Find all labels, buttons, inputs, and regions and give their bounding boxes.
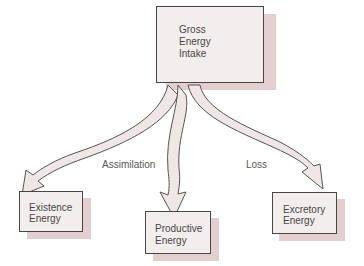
node-label: Energy — [179, 36, 211, 48]
node-label: Productive — [155, 223, 202, 235]
node-label: Energy — [283, 215, 315, 227]
edge-label-assimilation: Assimilation — [102, 159, 155, 170]
node-productive-energy: Productive Energy — [145, 211, 211, 254]
edge-label-loss: Loss — [246, 159, 267, 170]
arrow-loss — [188, 85, 323, 189]
node-label: Gross — [179, 24, 206, 36]
arrow-assimilation — [22, 85, 178, 195]
node-label: Energy — [155, 235, 187, 247]
node-label: Energy — [29, 213, 61, 225]
node-label: Intake — [179, 48, 206, 60]
node-existence-energy: Existence Energy — [19, 191, 83, 232]
node-excretory-energy: Excretory Energy — [272, 192, 337, 234]
node-gross-energy-intake: Gross Energy Intake — [156, 6, 264, 83]
